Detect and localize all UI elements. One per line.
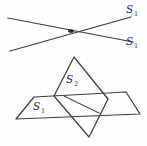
upper-label-1-subscript: 1 [134, 10, 138, 18]
upper-label-2: S 1 [126, 35, 138, 50]
upper-panel-two-intersecting-lines: S 1 S 1 [8, 3, 138, 51]
upper-label-2-subscript: 1 [134, 42, 138, 50]
figure-canvas: S 1 S 1 S 2 S 1 [0, 0, 147, 146]
plane-label-s1-subscript: 1 [41, 107, 45, 115]
plane-label-s2: S 2 [66, 73, 78, 88]
plane-label-s1-base: S [33, 100, 40, 112]
plane-label-s1: S 1 [33, 100, 45, 115]
plane-label-s2-subscript: 2 [74, 80, 78, 88]
lower-panel-two-intersecting-planes: S 2 S 1 [16, 57, 140, 137]
lines-intersection-dot [68, 29, 74, 33]
upper-label-2-base: S [126, 35, 133, 47]
plane-label-s2-base: S [66, 73, 73, 85]
upper-label-1: S 1 [126, 3, 138, 18]
upper-label-1-base: S [126, 3, 133, 15]
plane-s2-diagonal [54, 57, 108, 137]
geometry-figure: S 1 S 1 S 2 S 1 [0, 0, 147, 146]
planes-intersection-line [64, 96, 99, 113]
